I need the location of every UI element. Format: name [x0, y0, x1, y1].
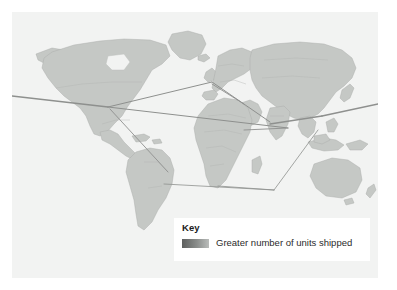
slide-root: Key Greater number of units shipped: [0, 0, 397, 290]
legend-entry-row: Greater number of units shipped: [182, 237, 363, 249]
legend-key-box: Key Greater number of units shipped: [174, 218, 370, 261]
legend-gradient-swatch: [182, 239, 209, 248]
slide-canvas: Key Greater number of units shipped: [12, 12, 378, 278]
legend-entry-label: Greater number of units shipped: [216, 237, 352, 249]
hispaniola-shape: [152, 139, 162, 144]
legend-title: Key: [182, 222, 363, 234]
